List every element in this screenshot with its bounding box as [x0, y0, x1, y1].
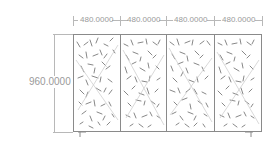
perforation-pattern — [0, 0, 275, 154]
